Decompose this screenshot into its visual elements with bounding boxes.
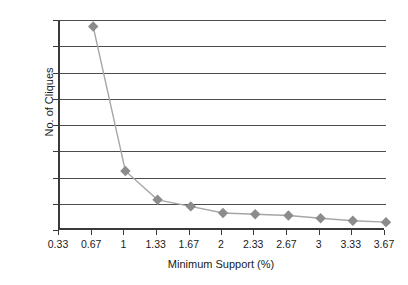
x-axis-tick-label: 3.67 bbox=[364, 239, 404, 250]
x-axis-tick bbox=[253, 230, 254, 235]
x-axis-tick bbox=[189, 230, 190, 235]
data-point-marker bbox=[348, 216, 358, 226]
data-point-marker bbox=[381, 217, 391, 227]
series-line bbox=[93, 27, 386, 223]
y-axis-tick bbox=[53, 204, 58, 205]
data-point-marker bbox=[315, 213, 325, 223]
y-axis-tick bbox=[53, 178, 58, 179]
x-axis-tick bbox=[286, 230, 287, 235]
x-axis-tick bbox=[156, 230, 157, 235]
plot-area bbox=[58, 20, 384, 230]
y-axis-tick bbox=[53, 99, 58, 100]
x-axis-tick bbox=[384, 230, 385, 235]
data-point-marker bbox=[218, 208, 228, 218]
y-axis-tick bbox=[53, 125, 58, 126]
y-axis-tick bbox=[53, 20, 58, 21]
series-layer bbox=[60, 20, 386, 230]
y-axis-title: No. of Cliques bbox=[43, 47, 55, 157]
series-markers bbox=[88, 21, 391, 227]
x-axis-tick bbox=[91, 230, 92, 235]
x-axis-tick bbox=[58, 230, 59, 235]
x-axis-title: Minimum Support (%) bbox=[58, 258, 384, 270]
y-axis-tick bbox=[53, 46, 58, 47]
x-axis-tick bbox=[351, 230, 352, 235]
data-point-marker bbox=[186, 201, 196, 211]
chart-figure: No. of Cliques 020406080100120140160 0.3… bbox=[0, 0, 408, 285]
data-point-marker bbox=[283, 210, 293, 220]
data-point-marker bbox=[88, 21, 98, 31]
x-axis-tick bbox=[123, 230, 124, 235]
x-axis-tick bbox=[319, 230, 320, 235]
x-axis-tick bbox=[221, 230, 222, 235]
data-point-marker bbox=[250, 209, 260, 219]
y-axis-tick bbox=[53, 73, 58, 74]
y-axis-tick bbox=[53, 151, 58, 152]
